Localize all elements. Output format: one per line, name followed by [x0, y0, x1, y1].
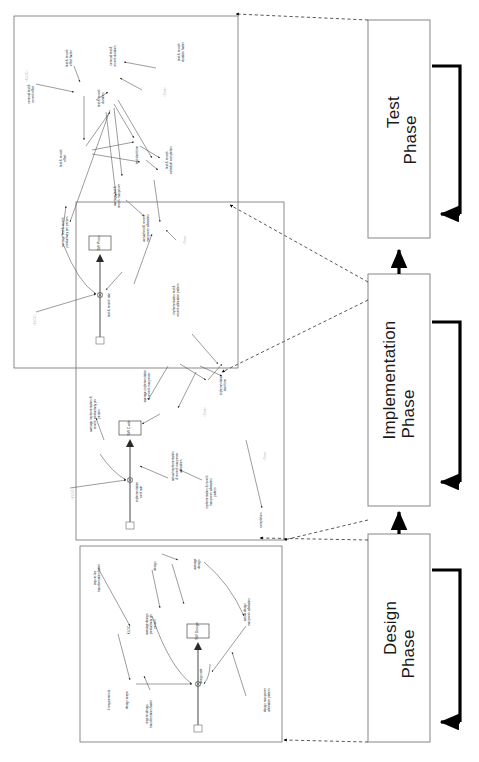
phase-label-test-line2: Phase [401, 115, 420, 164]
label-t5b: duration [101, 92, 105, 103]
label-t4b: duration factor [181, 42, 185, 61]
phase-label-design-line2: Phase [399, 629, 418, 678]
label-i5c: pattern [213, 487, 217, 497]
label-t16: <KLOC> [33, 314, 37, 326]
label-t8b: schedule completion [169, 146, 173, 174]
stock-label-sw-code: SW Code [127, 420, 131, 435]
label-i1c: person [97, 409, 101, 419]
design-source-cloud [194, 725, 202, 732]
label-i7: completion [259, 512, 263, 527]
label-d8b: manpower allocation [247, 598, 251, 626]
label-t13b: rework allocation pattern [176, 283, 180, 316]
label-i8: <KLOC> [71, 488, 75, 500]
label-t10b: productivity per person [65, 216, 69, 247]
phase-label-implementation-line2: Phase [399, 389, 418, 438]
label-i2b: & rework manpower [147, 372, 151, 399]
label-t9b: rework manpower [117, 184, 121, 208]
label-t6b: effort [63, 154, 67, 161]
label-d7b: transformation factor [149, 700, 153, 728]
label-t12b: manpower allocation [146, 214, 150, 242]
label-d11b: design [197, 559, 201, 568]
label-d3: KLOC [127, 625, 131, 634]
label-i3b: work rate [139, 485, 143, 498]
stock-label-sw-design: SW Design [195, 622, 199, 640]
label-i4c: allocation [179, 459, 183, 472]
label-t17: <Time> [183, 235, 187, 245]
label-t11: test & rework rate [107, 293, 111, 317]
label-i10: <Time> [263, 451, 267, 461]
label-d5: design rate [199, 668, 203, 683]
phase-label-implementation-line1: Implementation [380, 320, 399, 439]
label-d1: # requirements [107, 689, 111, 710]
label-d4c: person [153, 619, 157, 629]
label-t15: <Time> [163, 87, 167, 97]
phase-label-design-line1: Design [381, 601, 400, 655]
diagram-canvas: Test Phase Implementation Phase Design P… [0, 0, 479, 762]
label-d6: design scope [125, 691, 129, 709]
label-i9: <Time> [203, 407, 207, 417]
label-t7: test start time [135, 146, 139, 165]
label-t2b: effort factor [69, 50, 73, 65]
label-i6b: start time [223, 378, 227, 391]
test-source-cloud [96, 337, 104, 344]
stock-label-sw-proto: SW Proto [97, 235, 101, 250]
label-t1b: rework effort [31, 85, 35, 102]
label-d10: design [153, 561, 157, 570]
label-t3b: rework duration [113, 45, 117, 66]
label-d2b: transformation factor [97, 564, 101, 592]
impl-source-cloud [126, 522, 134, 529]
label-d9b: allocation pattern [267, 688, 271, 712]
label-t14: <KLOC> [25, 70, 29, 82]
